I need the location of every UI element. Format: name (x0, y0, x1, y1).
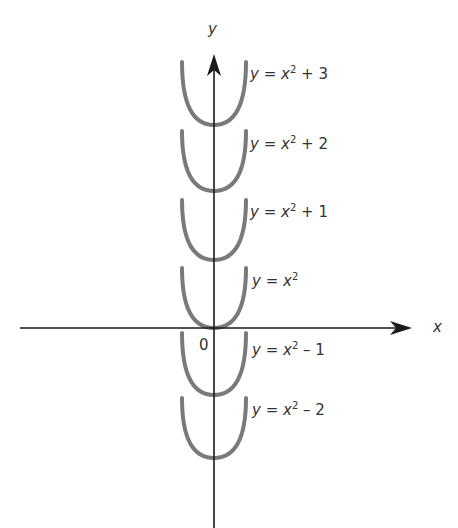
x-axis-label: x (433, 318, 442, 336)
equation-label-minus-1: y = x2 – 1 (252, 340, 325, 359)
equation-label-plus-1: y = x2 + 1 (250, 202, 328, 221)
equation-label-zero: y = x2 (252, 271, 298, 290)
origin-label: 0 (199, 336, 209, 354)
equation-label-plus-2: y = x2 + 2 (250, 134, 328, 153)
graph-canvas (0, 0, 458, 528)
y-axis-label: y (208, 20, 217, 38)
equation-label-minus-2: y = x2 – 2 (252, 400, 325, 419)
equation-label-plus-3: y = x2 + 3 (250, 64, 328, 83)
